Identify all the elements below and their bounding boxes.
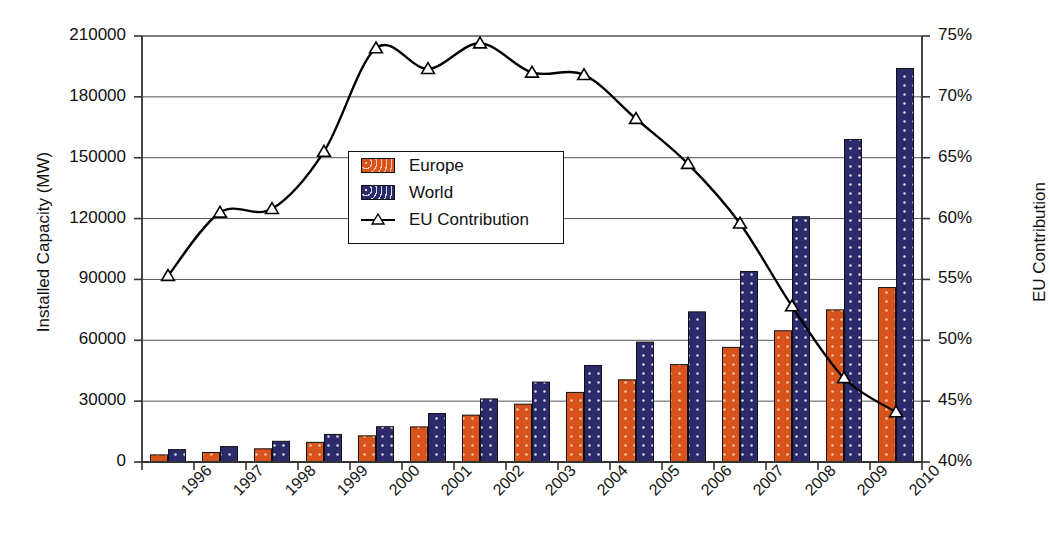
- y-axis-left-tick: 60000: [0, 329, 126, 349]
- y-axis-right-tick: 70%: [938, 86, 972, 106]
- legend-label-world: World: [409, 183, 453, 203]
- legend-label-europe: Europe: [409, 156, 464, 176]
- y-axis-left-tick: 150000: [0, 147, 126, 167]
- y-axis-right-tick: 60%: [938, 208, 972, 228]
- y-axis-left-tick: 30000: [0, 390, 126, 410]
- legend-line-marker-triangle-icon: [361, 212, 395, 227]
- bars-world-series: [169, 68, 914, 462]
- legend-item-world: World: [349, 179, 563, 206]
- legend-swatch-europe-icon: [361, 158, 395, 173]
- y-axis-left-tick: 210000: [0, 25, 126, 45]
- y-axis-right-tick: 55%: [938, 268, 972, 288]
- y-axis-right-tick: 75%: [938, 25, 972, 45]
- bars-europe-series: [151, 288, 896, 462]
- y-axis-right-tick: 40%: [938, 451, 972, 471]
- legend-item-eu-contribution: EU Contribution: [349, 206, 563, 233]
- y-axis-left-tick: 120000: [0, 208, 126, 228]
- legend: Europe World EU Contribution: [348, 151, 564, 244]
- y-axis-right-tick: 65%: [938, 147, 972, 167]
- legend-label-eu-contribution: EU Contribution: [409, 210, 529, 230]
- legend-item-europe: Europe: [349, 152, 563, 179]
- y-axis-right-tick: 45%: [938, 390, 972, 410]
- y-axis-left-tick: 90000: [0, 268, 126, 288]
- y-axis-left-tick: 180000: [0, 86, 126, 106]
- y-axis-right-tick: 50%: [938, 329, 972, 349]
- y-axis-left-tick: 0: [0, 451, 126, 471]
- y-axis-right-title: EU Contribution: [1030, 102, 1050, 382]
- legend-swatch-world-icon: [361, 185, 395, 200]
